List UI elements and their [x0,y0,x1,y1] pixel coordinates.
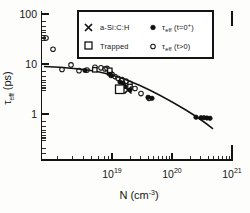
x-axis-tick-labels: 1019 1020 1021 [102,167,242,180]
x-axis-title: N (cm-3) [119,189,158,201]
y-axis-title: τeff (ps) [1,71,15,104]
y-tick-label-100: 100 [19,8,37,20]
figure-panel: 100 10 1 τeff (ps) 1019 1020 1021 N (cm-… [0,0,250,213]
legend-label-a-si-c-h: a-Si:C:H [100,23,130,32]
fit-curve [44,67,213,129]
chart-legend: a-Si:C:H Trapped τeff (t=0+) τeff (t>0) [78,11,213,58]
y-tick-label-1: 1 [31,108,37,120]
y-axis-ticks [42,14,49,153]
series-tau-eff-t-eq-0plus [83,68,212,120]
y-tick-label-10: 10 [25,58,37,70]
x-axis-title-main: N (cm [119,189,148,201]
x-tick-label-1e19: 1019 [102,167,122,180]
y-axis-title-units: (ps) [1,71,13,90]
y-axis-tick-labels: 100 10 1 [19,8,37,120]
x-tick-label-1e21: 1021 [222,167,242,180]
legend-label-trapped: Trapped [100,42,129,51]
x-axis-ticks [57,153,232,160]
legend-filled-circle-marker [151,25,156,30]
legend-open-square-marker [85,42,92,49]
x-axis-title-close: ) [155,189,159,201]
tau-eff-vs-doping-chart: 100 10 1 τeff (ps) 1019 1020 1021 N (cm-… [0,0,250,213]
x-tick-label-1e20: 1020 [162,167,182,180]
svg-text:τeff (ps): τeff (ps) [1,71,15,104]
